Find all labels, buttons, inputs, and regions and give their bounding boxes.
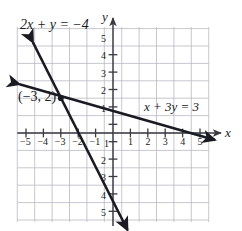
equation-label-steep-line: 2x + y = −4 bbox=[20, 18, 89, 32]
tick-label-x-neg-3: −3 bbox=[55, 137, 66, 147]
tick-label-y-4: 4 bbox=[101, 51, 106, 61]
tick-label-x-5: 5 bbox=[198, 137, 203, 147]
tick-label-x-neg-4: −4 bbox=[37, 137, 48, 147]
intersection-point-marker bbox=[58, 95, 64, 101]
coordinate-graph-figure: 2x + y = −4 x + 3y = 3 (−3, 2) x y −5 −4… bbox=[0, 0, 242, 231]
tick-label-x-neg-1: −1 bbox=[90, 137, 101, 147]
tick-label-y-2: 2 bbox=[101, 86, 106, 96]
tick-label-y-neg-5: 5 bbox=[101, 208, 106, 218]
y-axis-label: y bbox=[102, 10, 108, 23]
tick-label-y-3: 3 bbox=[101, 69, 106, 79]
tick-label-y-neg-3: 3 bbox=[101, 173, 106, 183]
tick-label-x-1: 1 bbox=[128, 137, 133, 147]
tick-label-y-neg-4: 4 bbox=[101, 191, 106, 201]
tick-label-x-neg-2: −2 bbox=[72, 137, 83, 147]
equation-label-shallow-line: x + 3y = 3 bbox=[144, 100, 199, 113]
intersection-point-label: (−3, 2) bbox=[18, 90, 56, 104]
tick-label-x-2: 2 bbox=[145, 137, 150, 147]
tick-label-y-1: 1 bbox=[101, 104, 106, 114]
tick-label-x-3: 3 bbox=[163, 137, 168, 147]
tick-label-y-neg-2: 2 bbox=[101, 156, 106, 166]
tick-label-y-5: 5 bbox=[101, 34, 106, 44]
tick-label-x-neg-5: −5 bbox=[20, 137, 31, 147]
tick-label-y-neg-1: 1 bbox=[104, 139, 109, 149]
tick-label-x-4: 4 bbox=[180, 137, 185, 147]
x-axis-label: x bbox=[225, 126, 231, 139]
graph-canvas bbox=[0, 0, 242, 231]
